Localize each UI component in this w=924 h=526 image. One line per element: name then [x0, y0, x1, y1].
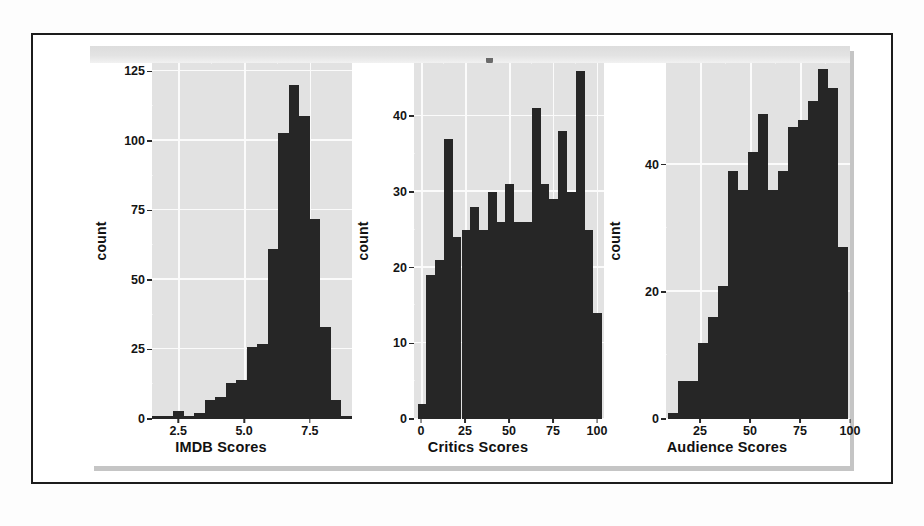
scanned-page: count 0255075100125 2.55.07.5 IMDB Score…	[0, 0, 924, 526]
x-tick-text: 2.5	[170, 424, 187, 438]
histogram-bar	[236, 380, 247, 419]
histogram-bars-imdb	[152, 63, 352, 419]
histogram-bar	[278, 133, 289, 419]
y-tick-label: 125	[124, 64, 152, 78]
x-tick-label: 2.5	[170, 419, 187, 438]
plot-row-critics: count 010203040	[352, 63, 604, 419]
x-tick-mark	[849, 419, 851, 423]
x-tick-text: 25	[693, 424, 707, 438]
histogram-bar	[541, 184, 550, 419]
y-axis-title-audience: count	[604, 63, 626, 419]
histogram-bar	[523, 222, 532, 419]
histogram-bar	[768, 190, 778, 419]
y-tick-text: 0	[138, 412, 145, 426]
histogram-bar	[444, 139, 453, 419]
y-tick-label: 100	[124, 134, 152, 148]
plot-panel-critics	[414, 63, 604, 419]
histogram-bar	[549, 199, 558, 419]
histogram-bar	[828, 88, 838, 419]
y-tick-text: 20	[393, 261, 407, 275]
y-tick-labels-imdb: 0255075100125	[112, 63, 152, 419]
y-tick-label: 10	[393, 336, 414, 350]
histogram-bars-critics	[414, 63, 604, 419]
histogram-bar	[488, 192, 497, 419]
histogram-bar	[758, 114, 768, 419]
x-tick-mark	[309, 419, 311, 423]
x-axis-title-audience: Audience Scores	[604, 439, 850, 463]
histogram-bar	[247, 347, 258, 419]
y-tick-label: 0	[400, 412, 414, 426]
histogram-bar	[426, 275, 435, 419]
x-tick-mark	[699, 419, 701, 423]
histogram-bar	[708, 317, 718, 419]
histogram-bar	[838, 247, 848, 419]
histogram-bar	[505, 184, 514, 419]
x-tick-labels-critics: 0255075100	[414, 419, 604, 439]
figure-card: count 0255075100125 2.55.07.5 IMDB Score…	[90, 46, 850, 466]
y-tick-text: 75	[131, 203, 145, 217]
y-tick-text: 10	[393, 336, 407, 350]
y-tick-label: 20	[645, 285, 666, 299]
histogram-bar	[470, 207, 479, 419]
y-tick-label: 40	[393, 109, 414, 123]
x-tick-label: 7.5	[301, 419, 318, 438]
y-tick-labels-critics: 010203040	[374, 63, 414, 419]
y-tick-label: 30	[393, 185, 414, 199]
scan-band-artifact	[90, 46, 850, 63]
x-tick-text: 100	[840, 424, 861, 438]
histogram-bar	[798, 120, 808, 419]
plot-panel-audience	[666, 63, 850, 419]
x-tick-text: 25	[458, 424, 472, 438]
histogram-bar	[435, 260, 444, 419]
histogram-bar	[576, 71, 585, 419]
y-tick-text: 30	[393, 185, 407, 199]
x-tick-text: 50	[502, 424, 516, 438]
histogram-bar	[818, 69, 828, 419]
y-tick-text: 40	[645, 158, 659, 172]
y-tick-label: 40	[645, 158, 666, 172]
histogram-bar	[299, 116, 310, 419]
y-tick-text: 50	[131, 273, 145, 287]
histogram-bar	[331, 400, 342, 419]
histogram-bar	[257, 344, 268, 419]
y-tick-text: 25	[131, 342, 145, 356]
y-tick-labels-audience: 02040	[626, 63, 666, 419]
y-axis-title-critics: count	[352, 63, 374, 419]
x-tick-label: 25	[458, 419, 472, 438]
y-tick-text: 0	[652, 412, 659, 426]
x-tick-text: 0	[418, 424, 425, 438]
facet-audience-scores: count 02040 255075100 Audience Scores	[604, 63, 850, 463]
histogram-bar	[462, 230, 471, 419]
x-tick-label: 5.0	[235, 419, 252, 438]
histogram-bars-audience	[666, 63, 850, 419]
x-tick-mark	[596, 419, 598, 423]
histogram-bar	[688, 381, 698, 419]
histogram-bar	[698, 343, 708, 419]
x-tick-text: 50	[743, 424, 757, 438]
histogram-bar	[418, 404, 427, 419]
x-axis-title-imdb: IMDB Scores	[90, 439, 352, 463]
plot-row-audience: count 02040	[604, 63, 850, 419]
histogram-bar	[808, 101, 818, 419]
x-tick-text: 75	[546, 424, 560, 438]
x-tick-mark	[508, 419, 510, 423]
x-tick-label: 75	[793, 419, 807, 438]
histogram-bar	[173, 411, 184, 419]
histogram-bar	[558, 131, 567, 419]
x-axis-row-audience: 255075100	[604, 419, 850, 439]
histogram-bar	[226, 383, 237, 419]
histogram-bar	[585, 230, 594, 419]
facet-critics-scores: count 010203040 0255075100 Critics Score…	[352, 63, 604, 463]
histogram-bar	[320, 327, 331, 419]
y-axis-title-label-imdb: count	[93, 221, 109, 260]
histogram-bar	[718, 286, 728, 420]
y-tick-label: 75	[131, 203, 152, 217]
y-tick-label: 25	[131, 342, 152, 356]
x-tick-text: 7.5	[301, 424, 318, 438]
histogram-bar	[788, 127, 798, 419]
x-tick-mark	[420, 419, 422, 423]
plot-row-imdb: count 0255075100125	[90, 63, 352, 419]
x-tick-label: 0	[418, 419, 425, 438]
histogram-bar	[514, 222, 523, 419]
y-axis-title-label-audience: count	[607, 221, 623, 260]
